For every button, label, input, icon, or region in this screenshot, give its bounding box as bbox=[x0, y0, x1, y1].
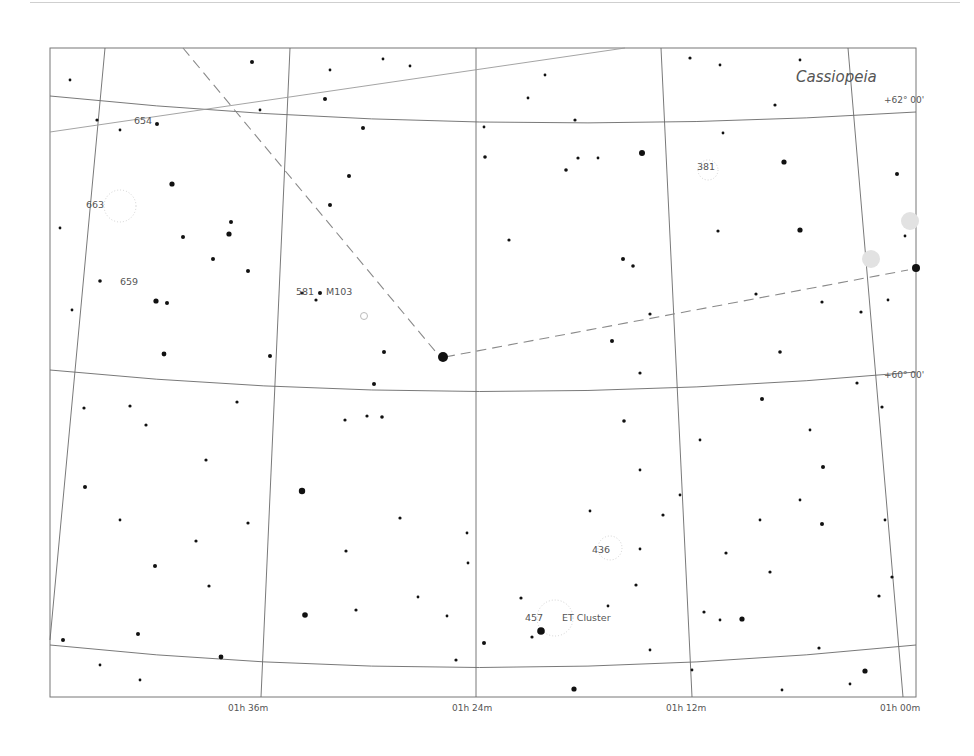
ra-label-0124: 01h 24m bbox=[452, 703, 492, 713]
right-ascension-labels: 01h 36m 01h 24m 01h 12m 01h 00m bbox=[228, 703, 920, 713]
object-label-ngc659[interactable]: 659 bbox=[120, 276, 138, 287]
ra-label-0100: 01h 00m bbox=[880, 703, 920, 713]
object-label-ngc663[interactable]: 663 bbox=[86, 199, 104, 210]
object-label-et-cluster[interactable]: ET Cluster bbox=[562, 612, 611, 623]
object-label-ngc381[interactable]: 381 bbox=[697, 161, 715, 172]
constellation-name: Cassiopeia bbox=[796, 68, 877, 86]
star-chart[interactable]: +62° 00' +60° 00' 01h 36m 01h 24m 01h 12… bbox=[0, 0, 974, 756]
dec-label-62: +62° 00' bbox=[884, 95, 924, 105]
dec-label-60: +60° 00' bbox=[884, 370, 924, 380]
chart-frame bbox=[50, 48, 916, 697]
ra-label-0136: 01h 36m bbox=[228, 703, 268, 713]
object-label-ngc436[interactable]: 436 bbox=[592, 544, 610, 555]
object-label-ngc654[interactable]: 654 bbox=[134, 115, 152, 126]
object-label-ngc457[interactable]: 457 bbox=[525, 612, 543, 623]
object-label-m103[interactable]: M103 bbox=[326, 286, 352, 297]
object-label-ngc581[interactable]: 581 bbox=[296, 286, 314, 297]
ra-label-0112: 01h 12m bbox=[666, 703, 706, 713]
